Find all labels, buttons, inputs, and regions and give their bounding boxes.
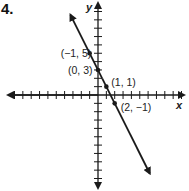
point-label: (1, 1) — [111, 76, 136, 88]
axes — [8, 3, 184, 188]
plotted-line — [70, 15, 149, 174]
coordinate-plane: x y (−1, 5)(0, 3)(1, 1)(2, −1) — [0, 0, 189, 191]
point-label: (2, −1) — [121, 101, 152, 113]
x-axis-label: x — [175, 99, 183, 111]
y-axis-label: y — [85, 1, 93, 13]
point-label: (−1, 5) — [61, 47, 92, 59]
plotted-points: (−1, 5)(0, 3)(1, 1)(2, −1) — [61, 47, 152, 113]
data-point — [96, 68, 101, 73]
data-point — [104, 84, 109, 89]
data-point — [112, 101, 117, 106]
point-label: (0, 3) — [68, 64, 93, 76]
